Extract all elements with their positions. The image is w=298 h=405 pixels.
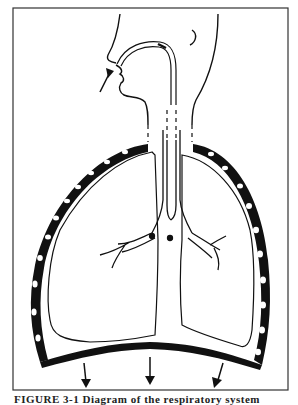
diaphragm-arrow-icon — [81, 357, 223, 388]
neck-dashes — [148, 110, 192, 142]
right-ribcage — [193, 144, 270, 365]
trachea — [152, 130, 192, 233]
inhale-arrow-icon — [100, 68, 114, 92]
left-lung — [48, 152, 158, 342]
diaphragm — [40, 342, 262, 370]
bronchi — [100, 233, 226, 270]
head-profile — [107, 14, 218, 125]
left-ribcage — [31, 144, 148, 362]
figure-caption: FIGURE 3-1 Diagram of the respiratory sy… — [14, 393, 260, 405]
